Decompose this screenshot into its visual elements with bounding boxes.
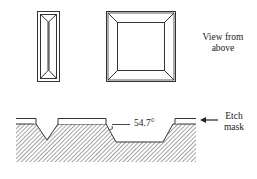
etch-mask-label: Etch mask (219, 111, 249, 133)
mask-label-line-2: mask (219, 122, 249, 133)
caption-line-1: View from (196, 32, 250, 43)
mask-label-line-1: Etch (219, 111, 249, 122)
diagram-canvas (0, 0, 257, 179)
v-groove-top-view (38, 12, 60, 82)
etch-mask (16, 119, 196, 125)
square-pit-top-view (107, 12, 176, 82)
angle-indicator (110, 125, 130, 131)
view-from-above-caption: View from above (196, 32, 250, 54)
caption-line-2: above (196, 43, 250, 54)
angle-label: 54.7° (134, 118, 154, 129)
substrate-cross-section (16, 124, 196, 162)
arrow-left-icon (200, 117, 218, 123)
